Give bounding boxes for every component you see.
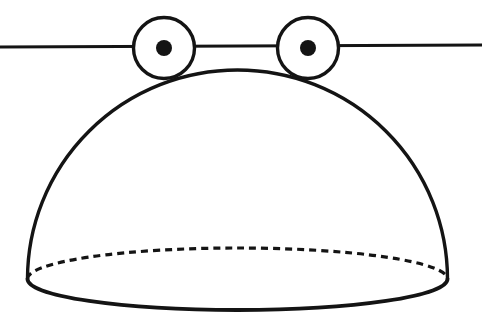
base-back-edge-dashed [28, 248, 448, 279]
surface-line [0, 45, 482, 47]
figure-canvas [0, 0, 482, 325]
base-front-edge [28, 279, 448, 310]
figure-container [0, 0, 482, 325]
right-roller-center-dot [300, 40, 316, 56]
left-roller-center-dot [156, 40, 172, 56]
